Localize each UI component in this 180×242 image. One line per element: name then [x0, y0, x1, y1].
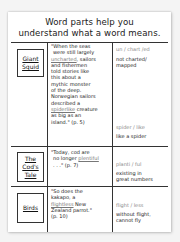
word-meaning: existing in great numbers: [116, 170, 153, 183]
word-meaning: like a spider: [116, 133, 146, 139]
word-parts: spider / like: [116, 124, 145, 130]
label-word: Birds: [23, 204, 38, 212]
word-parts: flight / less: [116, 202, 143, 208]
label-cods-tale: The Cod's Tale: [17, 152, 44, 182]
word-meaning: not charted/ mapped: [116, 56, 147, 69]
quote-cods-tale: "Today, cod are no longer plentiful . . …: [51, 149, 99, 168]
highlighted-word: flightless: [51, 201, 74, 207]
highlighted-word: plentiful: [78, 155, 98, 161]
word-parts: un / chart /ed: [116, 46, 150, 52]
chart-title: Word parts help you understand what a wo…: [8, 17, 171, 39]
label-giant-squid: Giant Squid: [17, 49, 44, 77]
label-word: The: [25, 155, 36, 163]
anchor-chart-card: Word parts help you understand what a wo…: [8, 12, 171, 232]
label-word: Giant: [22, 55, 38, 63]
quote-birds: "So does the kakapo, a flightless New Ze…: [51, 188, 92, 219]
column-divider-1: [47, 42, 48, 232]
row-divider-1: [11, 146, 168, 147]
quote-giant-squid: "When the seas were still largely unchar…: [51, 43, 98, 125]
label-word: Squid: [22, 63, 39, 71]
title-line-1: Word parts help you: [8, 17, 171, 28]
highlighted-word: uncharted: [51, 56, 77, 62]
label-word: Tale: [25, 171, 37, 179]
highlighted-word: spiderlike: [51, 106, 75, 112]
title-line-2: understand what a word means.: [8, 28, 171, 39]
column-divider-2: [112, 42, 113, 232]
row-divider-2: [11, 186, 168, 187]
label-birds: Birds: [17, 193, 44, 223]
word-parts: planti / ful: [116, 161, 141, 167]
word-meaning: without flight, cannot fly: [116, 211, 151, 224]
label-word: Cod's: [22, 163, 38, 171]
